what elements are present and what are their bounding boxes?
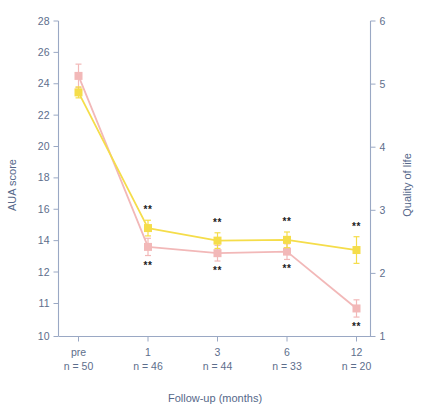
y-axis-tick-label: 28	[38, 15, 50, 27]
y-axis-tick-label: 11	[39, 297, 50, 309]
y-axis-tick-label: 26	[38, 46, 50, 58]
y2-axis-tick-label: 2	[380, 267, 386, 279]
left-axis-ticks: 1011121416182022242628	[38, 15, 59, 343]
x-axis-sample-size-label: n = 33	[272, 360, 302, 372]
x-axis-category-label: 6	[284, 346, 290, 358]
y-axis-tick-label: 22	[38, 109, 50, 121]
data-point-marker	[214, 237, 222, 245]
y-axis-tick-label: 10	[38, 330, 50, 342]
data-point-marker	[144, 243, 152, 251]
y-axis-tick-label: 16	[38, 203, 50, 215]
x-axis-category-label: pre	[71, 346, 86, 358]
x-axis-sample-size-label: n = 50	[64, 360, 94, 372]
x-axis-sample-size-label: n = 44	[203, 360, 233, 372]
y2-axis-tick-label: 5	[380, 78, 386, 90]
series-layer	[75, 64, 361, 317]
x-axis-category-label: 12	[351, 346, 363, 358]
significance-marker: **	[283, 263, 292, 274]
chart-container: 1011121416182022242628 123456 pren = 501…	[0, 0, 425, 414]
x-axis-category-label: 3	[215, 346, 221, 358]
data-point-marker	[75, 72, 83, 80]
aua-score-quality-of-life-line-chart: 1011121416182022242628 123456 pren = 501…	[0, 0, 425, 414]
series-aua-score	[75, 64, 361, 317]
y-axis-tick-label: 14	[38, 234, 50, 246]
y-axis-tick-label: 20	[38, 140, 50, 152]
data-point-marker	[75, 88, 83, 96]
x-axis-sample-size-label: n = 46	[133, 360, 163, 372]
series-quality-of-life	[75, 87, 361, 263]
significance-marker: **	[213, 265, 222, 276]
significance-marker: **	[283, 216, 292, 227]
y2-axis-title: Quality of life	[401, 153, 413, 217]
y2-axis-tick-label: 3	[380, 204, 386, 216]
y-axis-title: AUA score	[6, 159, 18, 211]
y-axis-tick-label: 18	[38, 171, 50, 183]
significance-marker: **	[144, 204, 153, 215]
data-point-marker	[353, 304, 361, 312]
x-axis-category-label: 1	[145, 346, 151, 358]
significance-marker: **	[144, 260, 153, 271]
data-point-marker	[144, 224, 152, 232]
y-axis-tick-label: 12	[38, 266, 50, 278]
data-point-marker	[214, 249, 222, 257]
x-axis-title: Follow-up (months)	[168, 392, 262, 404]
x-axis-ticks: pren = 501n = 463n = 446n = 3312n = 20	[64, 337, 372, 372]
significance-marker: **	[352, 221, 361, 232]
data-point-marker	[283, 248, 291, 256]
y2-axis-tick-label: 4	[380, 141, 386, 153]
y2-axis-tick-label: 1	[380, 330, 386, 342]
y-axis-tick-label: 24	[38, 77, 50, 89]
x-axis-sample-size-label: n = 20	[342, 360, 372, 372]
data-point-marker	[283, 236, 291, 244]
right-axis-ticks: 123456	[371, 15, 386, 343]
significance-annotations: ****************	[144, 204, 361, 332]
y2-axis-tick-label: 6	[380, 15, 386, 27]
significance-marker: **	[352, 321, 361, 332]
data-point-marker	[353, 246, 361, 254]
significance-marker: **	[213, 217, 222, 228]
